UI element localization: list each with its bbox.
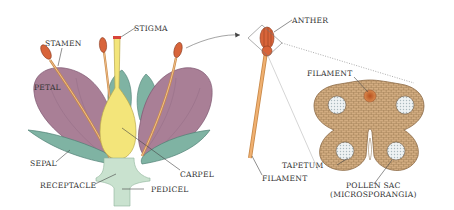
pollen-sac — [336, 142, 354, 160]
label-microsporangia: (MICROSPORANGIA) — [330, 190, 417, 199]
pollen-sac — [396, 96, 414, 114]
label-anther: ANTHER — [291, 16, 328, 25]
label-pedicel: PEDICEL — [151, 185, 189, 194]
label-sepal: SEPAL — [30, 159, 57, 168]
zoom-arrow — [186, 35, 240, 48]
label-petal: PETAL — [34, 83, 61, 92]
label-stamen: STAMEN — [45, 39, 82, 48]
label-filament-section: FILAMENT — [307, 69, 352, 78]
anther-cross-section — [314, 80, 424, 170]
enlarged-stamen — [248, 25, 282, 158]
label-receptacle: RECEPTACLE — [40, 181, 96, 190]
label-stigma: STIGMA — [134, 24, 168, 33]
label-tapetum: TAPETUM — [282, 161, 323, 170]
pollen-sac — [328, 96, 346, 114]
arrow-head-icon — [235, 33, 240, 38]
stigma — [113, 36, 121, 39]
filament-core — [364, 90, 376, 102]
label-pollen-sac: POLLEN SAC — [346, 181, 401, 190]
label-carpel: CARPEL — [180, 170, 214, 179]
flower-diagram: STIGMA STAMEN PETAL SEPAL RECEPTACLE PED… — [0, 0, 454, 210]
central-slit — [369, 138, 372, 160]
pollen-sac — [387, 142, 405, 160]
receptacle — [96, 158, 150, 206]
label-filament-stamen: FILAMENT — [262, 174, 307, 183]
